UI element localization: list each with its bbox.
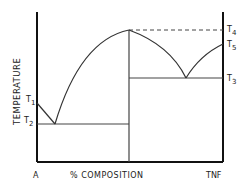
t2-sub: 2	[29, 120, 33, 128]
t3-label: T3	[226, 74, 236, 86]
t1-label: T1	[25, 95, 35, 107]
x-axis-label: % COMPOSITION	[70, 171, 144, 180]
t4-label: T4	[226, 25, 237, 37]
liquidus-compound-left	[55, 30, 129, 124]
phase-diagram: TEMPERATURE A % COMPOSITION TNF T1 T2 T4…	[0, 0, 252, 185]
t5-sub: 5	[232, 44, 236, 52]
t1-sub: 1	[31, 99, 35, 107]
liquidus-tnf-segment	[186, 44, 223, 78]
t5-label: T5	[226, 40, 236, 52]
t4-sub: 4	[232, 29, 237, 37]
liquidus-a-segment	[37, 103, 55, 124]
t2-label: T2	[23, 116, 33, 128]
x-axis-left-label: A	[33, 171, 39, 180]
y-axis-label: TEMPERATURE	[12, 58, 22, 126]
t3-sub: 3	[232, 78, 236, 86]
x-axis-right-label: TNF	[205, 171, 222, 180]
liquidus-compound-right	[129, 30, 186, 78]
